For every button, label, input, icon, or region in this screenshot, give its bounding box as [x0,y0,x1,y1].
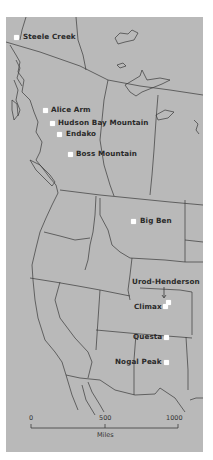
mine-marker-icon [57,132,62,137]
site-label: Urod-Henderson [132,278,200,286]
mine-marker-icon [14,35,19,40]
site-label: Boss Mountain [76,150,137,158]
mine-marker-icon [164,335,169,340]
mine-marker-icon [163,304,168,309]
site-label: Big Ben [140,217,172,225]
map-boundaries [6,17,203,452]
mine-marker-icon [164,360,169,365]
scale-tick-500: 500 [99,415,111,422]
scale-unit-label: Miles [97,432,114,439]
site-label: Nogal Peak [115,358,162,366]
mine-marker-icon [50,121,55,126]
map-area: Steele Creek Alice Arm Hudson Bay Mounta… [6,17,203,452]
scale-tick-1000: 1000 [166,415,183,422]
mine-marker-icon [131,219,136,224]
site-label: Climax [134,303,162,311]
pointer-arrow-icon [161,287,169,301]
mine-marker-icon [43,108,48,113]
site-label: Steele Creek [23,33,76,41]
site-label: Hudson Bay Mountain [58,119,149,127]
site-label: Questa [133,333,162,341]
scale-tick-0: 0 [29,415,33,422]
mine-marker-icon [68,152,73,157]
site-label: Alice Arm [51,106,91,114]
site-label: Endako [66,130,96,138]
